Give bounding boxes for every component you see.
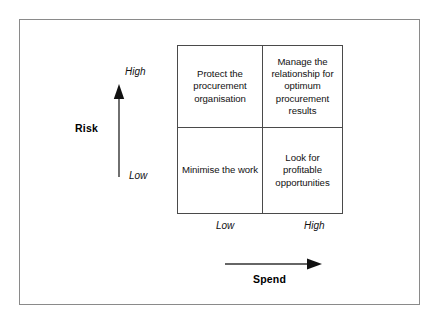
- matrix-cell-top-left: Protect the procurement organisation: [178, 46, 263, 128]
- x-axis-high-label: High: [304, 220, 325, 231]
- matrix-cell-top-right: Manage the relationship for optimum proc…: [263, 46, 342, 128]
- y-axis-low-label: Low: [129, 170, 147, 181]
- x-axis-arrow-right-icon: [224, 254, 324, 274]
- y-axis-title-risk: Risk: [75, 122, 98, 134]
- y-axis-high-label: High: [125, 66, 146, 77]
- matrix-grid: Protect the procurement organisation Man…: [177, 45, 343, 214]
- y-axis-arrow-up-icon: [108, 83, 130, 177]
- x-axis-title-spend: Spend: [253, 273, 286, 285]
- procurement-risk-spend-matrix-figure: High Risk Low Protect the procurement or…: [0, 0, 440, 326]
- x-axis-low-label: Low: [216, 220, 234, 231]
- matrix-cell-bottom-right: Look for profitable opportunities: [263, 128, 342, 213]
- matrix-cell-bottom-left: Minimise the work: [178, 128, 263, 213]
